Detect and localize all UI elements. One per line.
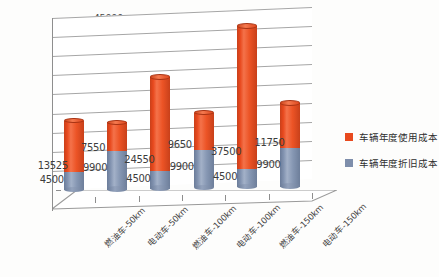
plot-area: 1352545007550990024550450096509900375004… xyxy=(52,18,312,210)
legend-label-depreciation-cost: 车辆年度折旧成本 xyxy=(359,156,437,170)
bar-bottom-cap-4 xyxy=(194,185,214,190)
bar-segment-usage-4[interactable] xyxy=(194,113,214,150)
data-label-depreciation-1: 4500 xyxy=(40,174,64,185)
legend-label-usage-cost: 车辆年度使用成本 xyxy=(359,130,437,144)
legend-swatch-blue xyxy=(345,159,353,167)
legend-item-usage-cost[interactable]: 车辆年度使用成本 xyxy=(345,130,437,144)
bar-bottom-cap-5 xyxy=(237,184,257,189)
bar-bottom-cap-1 xyxy=(64,187,84,192)
bar-top-cap-3 xyxy=(150,74,170,79)
chart-legend: 车辆年度使用成本 车辆年度折旧成本 xyxy=(345,130,437,182)
bar-segment-depreciation-1[interactable] xyxy=(64,172,84,189)
data-label-depreciation-2: 9900 xyxy=(83,162,107,173)
x-axis-tickmark-3 xyxy=(139,196,140,202)
data-label-usage-2: 7550 xyxy=(81,142,105,153)
bar-segment-depreciation-6[interactable] xyxy=(280,148,300,186)
bar-column-3[interactable] xyxy=(150,77,170,188)
data-label-usage-5: 37500 xyxy=(211,146,241,157)
bar-bottom-cap-6 xyxy=(280,183,300,188)
bar-segment-usage-2[interactable] xyxy=(107,122,127,151)
legend-swatch-orange xyxy=(345,133,353,141)
data-label-usage-6: 11750 xyxy=(254,137,284,148)
bar-top-cap-5 xyxy=(237,23,257,28)
chart-container: 0500010000150002000025000300003500040000… xyxy=(0,0,439,277)
data-label-depreciation-4: 9900 xyxy=(170,161,194,172)
bar-top-cap-6 xyxy=(280,100,300,105)
bar-segment-depreciation-3[interactable] xyxy=(150,171,170,188)
legend-item-depreciation-cost[interactable]: 车辆年度折旧成本 xyxy=(345,156,437,170)
data-label-depreciation-5: 4500 xyxy=(213,171,237,182)
data-label-usage-4: 9650 xyxy=(168,139,192,150)
data-label-depreciation-3: 4500 xyxy=(126,173,150,184)
bar-column-5[interactable] xyxy=(237,26,257,187)
bar-bottom-cap-2 xyxy=(107,186,127,191)
x-axis-tickmark-5 xyxy=(225,195,226,201)
bar-bottom-cap-3 xyxy=(150,185,170,190)
x-axis-tickmark-4 xyxy=(182,195,183,201)
x-axis-tickmark-1 xyxy=(52,198,53,204)
x-axis-tickmark-end xyxy=(312,193,313,199)
bar-segment-depreciation-5[interactable] xyxy=(237,169,257,186)
x-axis-tickmark-2 xyxy=(95,197,96,203)
data-label-depreciation-6: 9900 xyxy=(256,159,280,170)
data-label-usage-1: 13525 xyxy=(38,160,68,171)
data-label-usage-3: 24550 xyxy=(124,154,154,165)
bar-series-group xyxy=(52,18,312,211)
x-axis-tickmark-6 xyxy=(269,194,270,200)
bar-column-1[interactable] xyxy=(64,121,84,190)
bar-top-cap-2 xyxy=(107,120,127,125)
